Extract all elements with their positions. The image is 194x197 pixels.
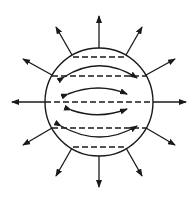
dashed-chords bbox=[45, 57, 153, 147]
sphere-diagram bbox=[0, 0, 194, 197]
